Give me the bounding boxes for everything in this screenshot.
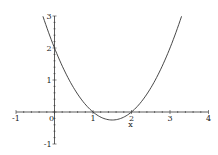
x-tick-label: -1: [12, 114, 20, 123]
x-tick-label: 4: [206, 114, 211, 123]
y-tick-label: 2: [46, 44, 51, 53]
parabola-curve: [43, 16, 182, 120]
y-axis: 321-1: [44, 12, 57, 149]
x-tick-label: 0: [49, 114, 54, 123]
x-axis: -101234: [12, 110, 211, 123]
y-tick-label: 1: [46, 76, 51, 85]
x-axis-label: x: [128, 120, 133, 129]
y-tick-label: 3: [46, 12, 51, 21]
function-plot: -101234 321-1 x: [0, 0, 218, 155]
x-tick-label: 3: [167, 114, 172, 123]
y-tick-label: -1: [44, 140, 52, 149]
x-tick-label: 1: [90, 114, 95, 123]
